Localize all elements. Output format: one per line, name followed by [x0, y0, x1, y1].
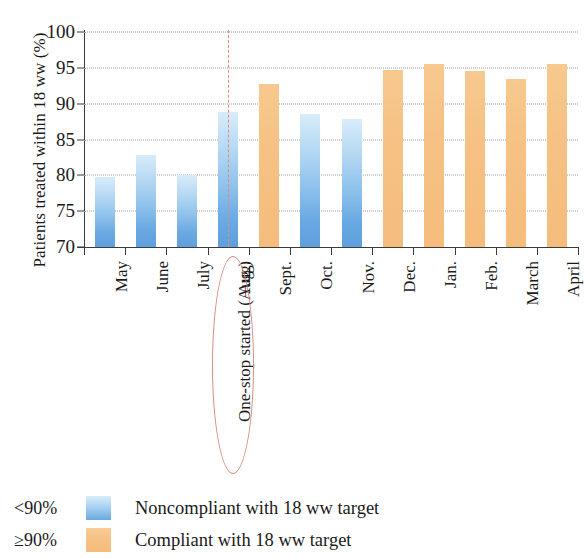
- x-tick-label: Jan.: [441, 261, 461, 288]
- y-tick-label: 100: [47, 21, 76, 43]
- x-tick-label: Oct.: [317, 261, 337, 290]
- legend: <90%Noncompliant with 18 ww target≥90%Co…: [14, 492, 574, 556]
- bar: [259, 84, 279, 247]
- bar: [506, 79, 526, 247]
- x-tick-label: May: [112, 261, 132, 292]
- bar: [300, 114, 320, 247]
- x-tick-mark: [537, 247, 538, 255]
- annotation-marker-line: [228, 30, 229, 247]
- bars-group: [84, 32, 578, 247]
- y-axis-title: Patients treated within 18 ww (%): [30, 15, 50, 285]
- bar: [547, 64, 567, 247]
- x-tick-mark: [413, 247, 414, 255]
- legend-item: <90%Noncompliant with 18 ww target: [14, 492, 574, 524]
- x-tick-label: March: [523, 261, 543, 305]
- y-tick-label: 75: [56, 200, 75, 222]
- bar: [95, 177, 115, 247]
- legend-threshold-label: <90%: [14, 498, 76, 519]
- x-tick-label: June: [153, 261, 173, 292]
- y-tick-mark: [77, 175, 84, 176]
- x-tick-mark: [496, 247, 497, 255]
- y-tick-mark: [77, 139, 84, 140]
- x-tick-label: Sept.: [276, 261, 296, 295]
- x-tick-mark: [578, 247, 579, 255]
- y-tick-label: 95: [56, 56, 75, 78]
- bar: [342, 119, 362, 247]
- bar: [465, 71, 485, 247]
- x-tick-mark: [455, 247, 456, 255]
- x-tick-mark: [290, 247, 291, 255]
- x-tick-label: Feb.: [482, 261, 502, 291]
- x-axis-line: [77, 247, 578, 248]
- y-tick-label: 80: [56, 164, 75, 186]
- bar: [424, 64, 444, 247]
- x-tick-mark: [249, 247, 250, 255]
- legend-label: Noncompliant with 18 ww target: [135, 498, 379, 519]
- y-tick-label: 85: [56, 128, 75, 150]
- x-tick-label: April: [564, 261, 584, 297]
- x-tick-mark: [84, 247, 85, 255]
- y-tick-mark: [77, 247, 84, 248]
- y-tick-mark: [77, 67, 84, 68]
- legend-threshold-label: ≥90%: [14, 530, 76, 551]
- x-tick-mark: [166, 247, 167, 255]
- legend-color-swatch: [86, 496, 111, 520]
- x-tick-label: Nov.: [359, 261, 379, 293]
- x-tick-mark: [208, 247, 209, 255]
- bar: [136, 155, 156, 247]
- y-tick-label: 90: [56, 92, 75, 114]
- bar: [177, 175, 197, 247]
- annotation-ellipse-icon: [212, 256, 254, 474]
- y-tick-label: 70: [56, 236, 75, 258]
- y-tick-mark: [77, 32, 84, 33]
- x-tick-label: July: [194, 261, 214, 289]
- x-tick-mark: [125, 247, 126, 255]
- bar: [383, 70, 403, 247]
- x-tick-mark: [372, 247, 373, 255]
- legend-color-swatch: [86, 528, 111, 552]
- plot-area: 707580859095100 MayJuneJulyAug.Sept.Oct.…: [84, 32, 578, 247]
- x-tick-mark: [331, 247, 332, 255]
- legend-label: Compliant with 18 ww target: [135, 530, 352, 551]
- legend-item: ≥90%Compliant with 18 ww target: [14, 524, 574, 556]
- y-tick-mark: [77, 103, 84, 104]
- x-tick-label: Dec.: [400, 261, 420, 293]
- y-tick-mark: [77, 211, 84, 212]
